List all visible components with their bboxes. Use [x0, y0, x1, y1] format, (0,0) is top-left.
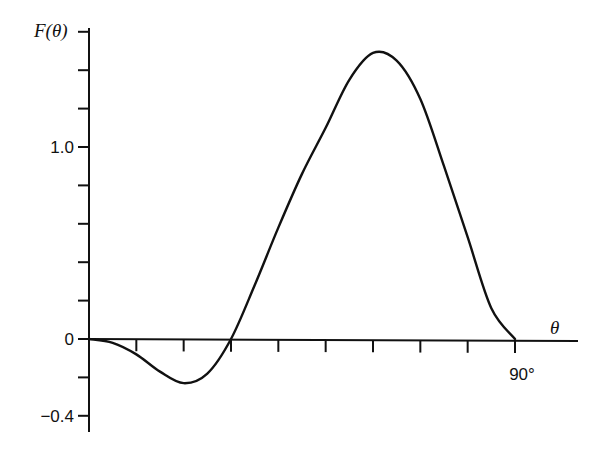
- x-axis: [89, 339, 578, 341]
- x-tick-label-90: 90°: [509, 365, 535, 384]
- y-axis-title: F(θ): [33, 20, 68, 42]
- y-tick-label-neg: −0.4: [40, 407, 74, 426]
- y-axis-ticks: [78, 32, 89, 416]
- y-tick-label-0: 0: [65, 330, 74, 349]
- data-curve: [89, 52, 515, 383]
- y-tick-label-1: 1.0: [50, 138, 74, 157]
- chart: F(θ) θ 1.0 0 −0.4 90°: [0, 0, 610, 453]
- x-axis-title: θ: [550, 317, 559, 338]
